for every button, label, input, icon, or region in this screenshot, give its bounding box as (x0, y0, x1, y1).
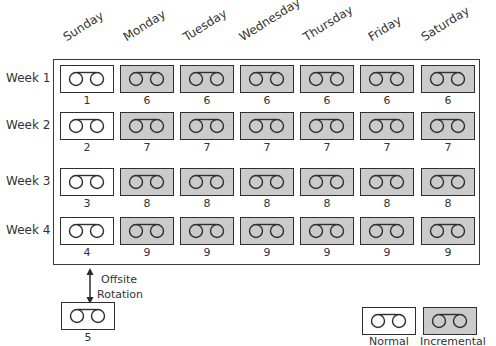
tape-reels-icon (121, 218, 172, 243)
day-label-friday: Friday (366, 13, 404, 44)
tape-incremental (180, 168, 234, 196)
offsite-label-line1: Offsite (97, 272, 143, 287)
day-label-saturday: Saturday (419, 3, 472, 44)
tape-reels-icon (241, 113, 292, 138)
tape-number: 9 (120, 246, 174, 259)
tape-incremental (421, 217, 475, 245)
tape-number: 7 (360, 141, 414, 154)
tape-reels-icon (181, 218, 232, 243)
tape-reels-icon (361, 113, 412, 138)
tape-reels-icon (301, 169, 352, 194)
tape-reels-icon (422, 218, 473, 243)
tape-incremental (120, 65, 174, 93)
tape-number: 8 (240, 197, 294, 210)
tape-reels-icon (181, 66, 232, 91)
tape-reels-icon (361, 218, 412, 243)
tape-incremental (240, 168, 294, 196)
tape-reels-icon (61, 113, 112, 138)
tape-incremental (360, 65, 414, 93)
tape-incremental (180, 112, 234, 140)
tape-number: 7 (120, 141, 174, 154)
legend-normal-label: Normal (369, 335, 409, 346)
tape-number: 6 (300, 94, 354, 107)
tape-reels-icon (61, 169, 112, 194)
offsite-label-line2: Rotation (97, 287, 143, 302)
tape-number: 6 (421, 94, 475, 107)
tape-reels-icon (301, 113, 352, 138)
tape-reels-icon (424, 308, 475, 333)
week-label-1: Week 1 (6, 71, 50, 85)
tape-incremental (120, 112, 174, 140)
tape-incremental (180, 217, 234, 245)
tape-number: 8 (360, 197, 414, 210)
tape-incremental (421, 65, 475, 93)
tape-number: 9 (360, 246, 414, 259)
tape-number: 6 (360, 94, 414, 107)
tape-number: 8 (300, 197, 354, 210)
tape-number: 6 (240, 94, 294, 107)
tape-number: 3 (60, 197, 114, 210)
tape-normal (60, 217, 114, 245)
tape-incremental (180, 65, 234, 93)
tape-incremental (360, 112, 414, 140)
tape-number: 9 (421, 246, 475, 259)
tape-number: 7 (240, 141, 294, 154)
day-label-monday: Monday (121, 7, 169, 44)
tape-reels-icon (121, 169, 172, 194)
tape-reels-icon (422, 66, 473, 91)
tape-reels-icon (121, 113, 172, 138)
week-label-2: Week 2 (6, 118, 50, 132)
tape-incremental (360, 217, 414, 245)
tape-incremental (300, 65, 354, 93)
tape-number: 8 (180, 197, 234, 210)
tape-incremental (240, 217, 294, 245)
tape-number: 9 (240, 246, 294, 259)
tape-reels-icon (363, 308, 414, 333)
tape-incremental (300, 217, 354, 245)
tape-number: 1 (60, 94, 114, 107)
tape-number: 7 (421, 141, 475, 154)
tape-number: 7 (300, 141, 354, 154)
tape-reels-icon (241, 66, 292, 91)
week-label-4: Week 4 (6, 223, 50, 237)
week-label-3: Week 3 (6, 174, 50, 188)
day-label-thursday: Thursday (301, 3, 356, 44)
tape-number: 8 (120, 197, 174, 210)
tape-number: 8 (421, 197, 475, 210)
tape-reels-icon (181, 113, 232, 138)
tape-reels-icon (361, 66, 412, 91)
tape-reels-icon (422, 169, 473, 194)
tape-normal (60, 65, 114, 93)
tape-reels-icon (181, 169, 232, 194)
tape-reels-icon (301, 218, 352, 243)
tape-incremental (300, 112, 354, 140)
legend-incremental-swatch (423, 307, 477, 335)
tape-reels-icon (241, 218, 292, 243)
tape-normal (60, 112, 114, 140)
tape-normal (60, 168, 114, 196)
tape-number: 4 (60, 246, 114, 259)
tape-incremental (120, 168, 174, 196)
tape-number: 6 (180, 94, 234, 107)
tape-reels-icon (301, 66, 352, 91)
tape-reels-icon (422, 113, 473, 138)
tape-incremental (360, 168, 414, 196)
tape-incremental (240, 65, 294, 93)
legend-incremental-label: Incremental (420, 335, 486, 346)
day-label-tuesday: Tuesday (181, 6, 230, 44)
tape-number: 2 (60, 141, 114, 154)
tape-incremental (300, 168, 354, 196)
tape-number: 9 (180, 246, 234, 259)
day-label-wednesday: Wednesday (237, 0, 303, 44)
tape-incremental (240, 112, 294, 140)
tape-reels-icon (61, 66, 112, 91)
offsite-tape-number: 5 (61, 331, 115, 344)
day-label-sunday: Sunday (61, 8, 107, 44)
tape-reels-icon (61, 218, 112, 243)
tape-reels-icon (121, 66, 172, 91)
tape-number: 9 (300, 246, 354, 259)
offsite-tape (61, 302, 115, 330)
tape-incremental (421, 168, 475, 196)
offsite-rotation-label: Offsite Rotation (97, 272, 143, 302)
legend-normal-swatch (362, 307, 416, 335)
